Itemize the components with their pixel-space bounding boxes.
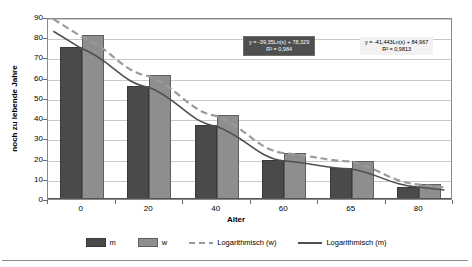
x-tick-mark bbox=[47, 200, 48, 204]
x-tick-mark bbox=[385, 200, 386, 204]
y-tick-mark bbox=[43, 119, 47, 120]
y-tick-mark bbox=[43, 79, 47, 80]
legend-label: Logarithmisch (w) bbox=[217, 238, 276, 247]
x-tick-label: 65 bbox=[321, 204, 381, 213]
x-tick-mark bbox=[182, 200, 183, 204]
bar-m-65[interactable] bbox=[330, 168, 352, 199]
y-tick-mark bbox=[43, 180, 47, 181]
y-tick-mark bbox=[43, 99, 47, 100]
x-tick-mark bbox=[250, 200, 251, 204]
annotation-m-r2: R² = 0,984 bbox=[249, 46, 309, 53]
chart-legend: mwLogarithmisch (w)Logarithmisch (m) bbox=[0, 238, 472, 247]
x-tick-label: 80 bbox=[388, 204, 448, 213]
legend-label: Logarithmisch (m) bbox=[326, 238, 386, 247]
annotation-w-r2: R² = 0,9813 bbox=[365, 46, 428, 53]
annotation-w-equation: y = -41,443Ln(x) + 84,967 bbox=[365, 39, 428, 46]
legend-line-icon bbox=[189, 240, 213, 246]
legend-swatch-icon bbox=[138, 238, 158, 247]
x-axis-title: Alter bbox=[0, 215, 472, 224]
bar-w-65[interactable] bbox=[352, 161, 374, 199]
bar-w-40[interactable] bbox=[217, 115, 239, 199]
annotation-w: y = -41,443Ln(x) + 84,967 R² = 0,9813 bbox=[360, 37, 433, 55]
y-tick-label: 20 bbox=[13, 156, 43, 164]
x-tick-label: 40 bbox=[186, 204, 246, 213]
x-tick-mark bbox=[452, 200, 453, 204]
bar-w-80[interactable] bbox=[419, 184, 441, 199]
y-tick-mark bbox=[43, 18, 47, 19]
bar-m-60[interactable] bbox=[262, 160, 284, 199]
legend-item-logarithmisch-w-[interactable]: Logarithmisch (w) bbox=[189, 238, 276, 247]
legend-item-logarithmisch-m-[interactable]: Logarithmisch (m) bbox=[298, 238, 386, 247]
annotation-m-equation: y = -39,35Ln(x) + 78,329 bbox=[249, 39, 309, 46]
bar-w-0[interactable] bbox=[82, 35, 104, 199]
x-tick-label: 0 bbox=[51, 204, 111, 213]
y-tick-label: 30 bbox=[13, 135, 43, 143]
bar-m-0[interactable] bbox=[60, 47, 82, 199]
y-tick-mark bbox=[43, 58, 47, 59]
legend-swatch-icon bbox=[86, 238, 106, 247]
bar-w-60[interactable] bbox=[284, 153, 306, 200]
y-tick-label: 90 bbox=[13, 14, 43, 22]
bar-m-40[interactable] bbox=[195, 125, 217, 199]
y-tick-label: 0 bbox=[13, 196, 43, 204]
bar-group bbox=[183, 19, 251, 199]
y-tick-label: 60 bbox=[13, 75, 43, 83]
legend-item-w[interactable]: w bbox=[138, 238, 167, 247]
y-tick-label: 50 bbox=[13, 95, 43, 103]
bar-group bbox=[116, 19, 184, 199]
legend-item-m[interactable]: m bbox=[86, 238, 116, 247]
y-tick-label: 10 bbox=[13, 176, 43, 184]
bar-m-20[interactable] bbox=[127, 86, 149, 199]
x-tick-label: 20 bbox=[118, 204, 178, 213]
legend-line-icon bbox=[298, 240, 322, 246]
y-tick-label: 40 bbox=[13, 115, 43, 123]
chart-title bbox=[0, 0, 472, 3]
x-tick-mark bbox=[115, 200, 116, 204]
x-tick-label: 60 bbox=[253, 204, 313, 213]
y-tick-label: 80 bbox=[13, 34, 43, 42]
legend-label: m bbox=[110, 238, 116, 247]
y-axis-title: noch zu lebende Jahre bbox=[10, 44, 19, 174]
legend-label: w bbox=[162, 238, 167, 247]
y-tick-mark bbox=[43, 38, 47, 39]
y-tick-mark bbox=[43, 160, 47, 161]
x-axis-line bbox=[48, 198, 451, 199]
bottom-divider bbox=[2, 260, 468, 261]
y-tick-mark bbox=[43, 139, 47, 140]
bar-w-20[interactable] bbox=[149, 75, 171, 199]
x-tick-mark bbox=[317, 200, 318, 204]
y-tick-label: 70 bbox=[13, 54, 43, 62]
chart-container: noch zu lebende Jahre 010203040506070809… bbox=[0, 0, 472, 267]
bar-group bbox=[48, 19, 116, 199]
annotation-m: y = -39,35Ln(x) + 78,329 R² = 0,984 bbox=[243, 36, 315, 56]
